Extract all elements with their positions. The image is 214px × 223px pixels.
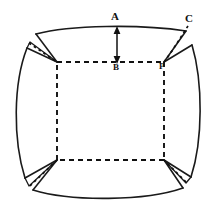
corner-tab-top-left: [27, 42, 57, 62]
figure-container: A B C P: [0, 0, 214, 223]
bottom-flap-outer-curve: [33, 188, 183, 198]
point-label-b: B: [113, 63, 119, 72]
right-flap-top-edge: [164, 45, 192, 62]
right-flap-outer-curve: [191, 45, 200, 177]
point-label-a: A: [111, 11, 119, 22]
left-flap-outer-curve: [16, 48, 27, 178]
top-flap-outer-curve: [36, 26, 186, 34]
point-label-c: C: [185, 13, 193, 24]
unfolding-box-diagram: [0, 0, 214, 223]
point-label-p: P: [159, 62, 165, 71]
bottom-flap-right-edge: [164, 160, 183, 188]
bottom-flap-left-edge: [33, 160, 57, 190]
